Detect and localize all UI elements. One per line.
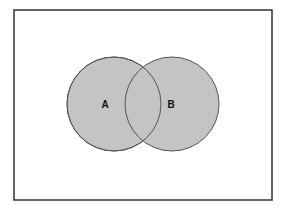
venn-diagram: A B (0, 0, 283, 213)
set-b-label: B (167, 99, 174, 110)
set-a-label: A (101, 99, 108, 110)
